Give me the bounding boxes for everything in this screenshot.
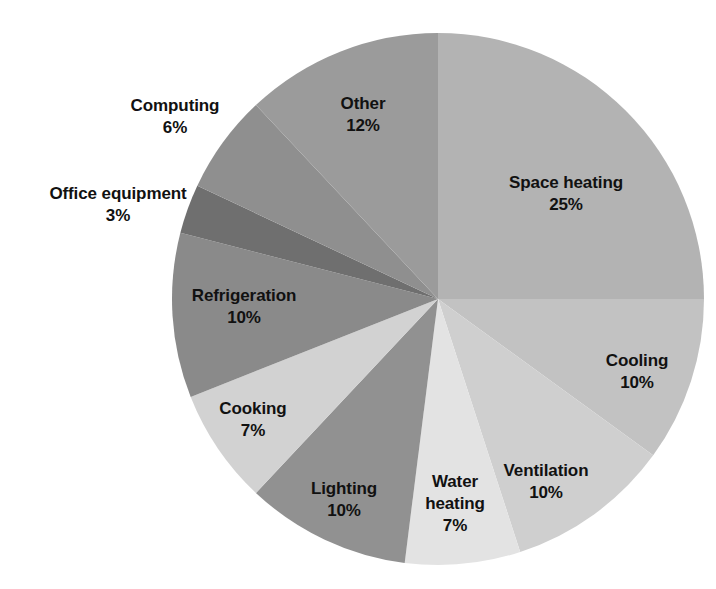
slice-label-computing: Computing 6% bbox=[131, 95, 220, 139]
pie-chart: Space heating 25% Cooling 10% Ventilatio… bbox=[0, 0, 716, 589]
slice-label-lighting-name: Lighting bbox=[311, 478, 377, 500]
slice-label-water-heating: Water heating 7% bbox=[425, 471, 485, 536]
slice-label-cooling-value: 10% bbox=[606, 372, 669, 394]
slice-label-other: Other 12% bbox=[341, 93, 386, 137]
slice-label-cooking: Cooking 7% bbox=[219, 398, 286, 442]
slice-label-water-heating-line2: heating bbox=[425, 493, 485, 515]
slice-label-computing-name: Computing bbox=[131, 95, 220, 117]
slice-label-space-heating-value: 25% bbox=[509, 194, 623, 216]
slice-label-water-heating-value: 7% bbox=[425, 515, 485, 537]
pie-slice bbox=[438, 33, 704, 299]
slice-label-office-equipment-name: Office equipment bbox=[49, 183, 186, 205]
slice-label-ventilation-name: Ventilation bbox=[504, 460, 589, 482]
slice-label-ventilation: Ventilation 10% bbox=[504, 460, 589, 504]
slice-label-space-heating-name: Space heating bbox=[509, 172, 623, 194]
slice-label-ventilation-value: 10% bbox=[504, 482, 589, 504]
slice-label-space-heating: Space heating 25% bbox=[509, 172, 623, 216]
slice-label-cooking-value: 7% bbox=[219, 420, 286, 442]
slice-label-other-value: 12% bbox=[341, 115, 386, 137]
slice-label-computing-value: 6% bbox=[131, 117, 220, 139]
slice-label-other-name: Other bbox=[341, 93, 386, 115]
slice-label-water-heating-line1: Water bbox=[425, 471, 485, 493]
slice-label-cooling-name: Cooling bbox=[606, 350, 669, 372]
slice-label-lighting-value: 10% bbox=[311, 500, 377, 522]
slice-label-refrigeration-value: 10% bbox=[192, 307, 297, 329]
slice-label-cooling: Cooling 10% bbox=[606, 350, 669, 394]
slice-label-office-equipment-value: 3% bbox=[49, 205, 186, 227]
slice-label-refrigeration: Refrigeration 10% bbox=[192, 285, 297, 329]
slice-label-refrigeration-name: Refrigeration bbox=[192, 285, 297, 307]
slice-label-cooking-name: Cooking bbox=[219, 398, 286, 420]
slice-label-lighting: Lighting 10% bbox=[311, 478, 377, 522]
slice-label-office-equipment: Office equipment 3% bbox=[49, 183, 186, 227]
